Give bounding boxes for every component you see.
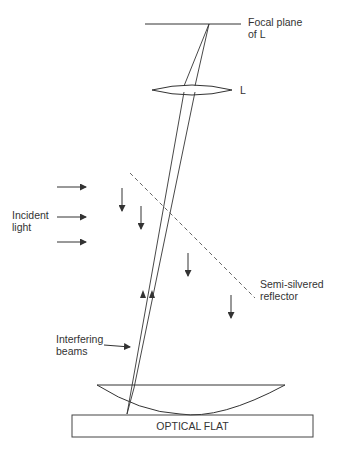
- focal-plane-label: Focal plane of L: [248, 16, 302, 40]
- semi-silvered-reflector: [130, 173, 255, 298]
- incident-light-label: Incident light: [12, 209, 49, 233]
- reflector-label: Semi-silvered reflector: [260, 278, 324, 302]
- optical-flat-label: OPTICAL FLAT: [72, 415, 313, 437]
- beam-upper-left: [184, 24, 209, 86]
- plano-convex-lens: [97, 385, 285, 415]
- lens-l: [152, 85, 232, 95]
- diagram-canvas: [0, 0, 337, 450]
- lens-label: L: [240, 84, 246, 96]
- beam-upper-right: [195, 24, 209, 86]
- interfering-beams-pointer-icon: [104, 345, 130, 347]
- beam-arrow-up-icon: [140, 290, 146, 298]
- interfering-beams-label: Interfering beams: [56, 333, 103, 357]
- beam-lower-left: [127, 92, 184, 414]
- beam-lower-right: [134, 92, 195, 388]
